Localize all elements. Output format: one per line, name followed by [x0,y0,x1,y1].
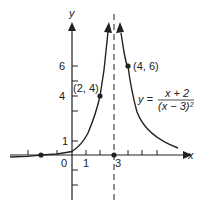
equation-denominator: (x − 3)² [158,100,193,112]
equation-label: y = x + 2 (x − 3)² [137,87,194,112]
point-4-6 [125,63,130,68]
equation-lhs: y = [137,93,154,105]
equation-numerator: x + 2 [164,87,189,99]
point-2-4 [97,93,102,98]
right-branch-arrow-icon [116,22,124,33]
y-tick-label-4: 4 [59,90,65,102]
y-tick-label-1: 1 [62,135,68,147]
y-axis-arrow-icon [68,22,76,31]
x-tick-label-1: 1 [83,157,89,169]
x-axis-label: x [187,149,194,161]
left-branch-arrow-icon [104,22,112,33]
y-tick-label-6: 6 [59,60,65,72]
x-tick-label-3: 3 [115,157,121,169]
point-label-2-4: (2, 4) [73,82,99,94]
point-label-4-6: (4, 6) [133,60,159,72]
function-graph: y x 6 4 1 0 1 3 (2, 4) (4, 6) y = x + 2 … [0,0,198,207]
y-axis-label: y [68,7,76,19]
x-tick-label-0: 0 [61,157,67,169]
point-x-intercept [38,152,43,157]
